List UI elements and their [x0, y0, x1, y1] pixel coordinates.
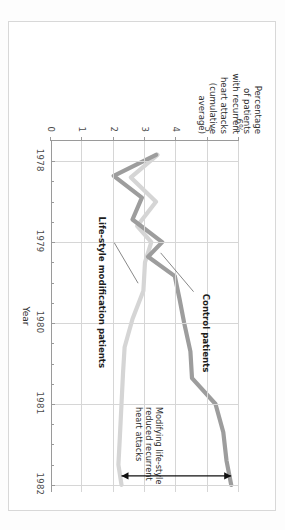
x-minor-tick: [51, 424, 54, 425]
conclusion-note-line-3: heart attacks: [134, 407, 144, 484]
x-minor-tick: [51, 303, 54, 304]
x-minor-tick: [51, 364, 54, 365]
x-minor-tick: [51, 384, 54, 385]
y-gridline: [81, 141, 82, 492]
y-tick: [50, 137, 51, 141]
conclusion-note-line-2: reduced recurrent: [144, 407, 154, 484]
x-tick-label: 1981: [35, 392, 45, 415]
x-axis-title: Year: [21, 140, 31, 492]
x-minor-tick: [51, 465, 54, 466]
x-gridline: [52, 485, 239, 486]
x-minor-tick: [51, 222, 54, 223]
y-tick-label: 1: [77, 100, 87, 132]
conclusion-note-line-1: Modifying life-style: [154, 407, 164, 484]
control-patients-label: Control patients: [201, 294, 211, 373]
y-axis-title-line-4: heart attacks: [218, 26, 229, 134]
figure-page: Percentage of patients with recurrent he…: [0, 0, 285, 530]
x-tick-label: 1980: [35, 311, 45, 334]
y-axis-title-line-1: Percentage: [252, 26, 263, 134]
y-gridline: [175, 141, 176, 492]
x-minor-tick: [51, 283, 54, 284]
y-tick: [113, 137, 114, 141]
x-tick-label: 1979: [35, 230, 45, 253]
x-minor-tick: [51, 444, 54, 445]
x-tick: [51, 485, 55, 486]
x-tick: [51, 242, 55, 243]
y-tick-label: 3: [140, 100, 150, 132]
x-tick-label: 1978: [35, 149, 45, 172]
chart-figure: Percentage of patients with recurrent he…: [9, 22, 277, 512]
y-gridline: [113, 141, 114, 492]
lifestyle-modification-label: Life-style modification patients: [97, 216, 107, 368]
x-tick: [51, 161, 55, 162]
rotated-figure-wrapper: Percentage of patients with recurrent he…: [9, 22, 277, 512]
conclusion-note: Modifying life-stylereduced recurrenthea…: [134, 407, 164, 484]
x-tick: [51, 323, 55, 324]
x-minor-tick: [51, 262, 54, 263]
y-tick-label: 2: [109, 100, 119, 132]
y-tick-label: 5: [203, 100, 213, 132]
y-tick: [81, 137, 82, 141]
x-minor-tick: [51, 181, 54, 182]
x-minor-tick: [51, 343, 54, 344]
y-tick-label: 4: [171, 100, 181, 132]
y-gridline: [238, 141, 239, 492]
y-tick-label: 0: [46, 100, 56, 132]
x-gridline: [52, 161, 239, 162]
y-tick: [238, 137, 239, 141]
x-gridline: [52, 242, 239, 243]
x-tick-label: 1982: [35, 472, 45, 495]
y-tick: [175, 137, 176, 141]
y-tick: [207, 137, 208, 141]
x-tick: [51, 404, 55, 405]
figure-card: Percentage of patients with recurrent he…: [8, 21, 276, 511]
x-gridline: [52, 404, 239, 405]
y-tick: [144, 137, 145, 141]
x-minor-tick: [51, 202, 54, 203]
y-tick-label: 6%: [234, 100, 244, 132]
